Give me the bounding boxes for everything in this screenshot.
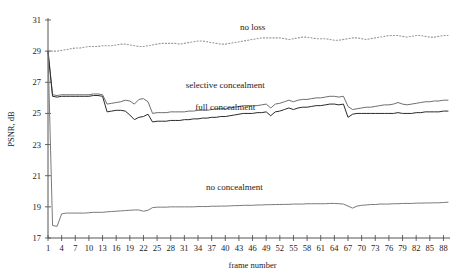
x-tick-label: 58	[303, 243, 312, 253]
x-tick-label: 52	[276, 243, 285, 253]
x-tick-label: 49	[262, 243, 271, 253]
x-tick-label: 1	[46, 243, 50, 253]
y-tick-label: 21	[33, 171, 42, 181]
series-line-no-concealment	[48, 51, 448, 226]
x-tick-label: 55	[289, 243, 298, 253]
x-tick-label: 43	[235, 243, 244, 253]
y-tick-label: 19	[33, 202, 42, 212]
y-tick-label: 23	[33, 140, 42, 150]
x-tick-label: 25	[153, 243, 162, 253]
series-annotation-no-loss: no loss	[240, 22, 266, 32]
x-tick-label: 10	[85, 243, 94, 253]
x-tick-label: 31	[180, 243, 189, 253]
y-tick-label: 27	[33, 77, 42, 87]
y-tick-label: 29	[33, 46, 42, 56]
psnr-frame-chart: 1719212325272931147101316192225283134374…	[0, 0, 458, 279]
y-tick-label: 31	[33, 15, 42, 25]
x-tick-label: 19	[126, 243, 135, 253]
chart-canvas: 1719212325272931147101316192225283134374…	[0, 0, 458, 279]
x-tick-label: 34	[194, 243, 203, 253]
x-tick-label: 37	[207, 243, 216, 253]
series-annotation-selective-concealment: selective concealment	[186, 80, 266, 90]
x-tick-label: 16	[112, 243, 121, 253]
y-tick-label: 25	[33, 108, 42, 118]
y-tick-label: 17	[33, 233, 42, 243]
x-tick-label: 61	[316, 243, 325, 253]
series-annotation-full-concealment: full concealment	[195, 102, 256, 112]
x-tick-label: 88	[439, 243, 448, 253]
x-tick-label: 76	[385, 243, 394, 253]
x-tick-label: 22	[139, 243, 148, 253]
series-line-no-loss	[48, 36, 448, 52]
x-tick-label: 13	[98, 243, 107, 253]
y-axis-title: PSNR, dB	[6, 111, 16, 147]
x-tick-label: 73	[371, 243, 380, 253]
x-tick-label: 79	[398, 243, 407, 253]
x-axis-title: frame number	[229, 260, 277, 270]
x-tick-label: 85	[426, 243, 435, 253]
x-tick-label: 82	[412, 243, 421, 253]
x-tick-label: 4	[60, 243, 65, 253]
x-tick-label: 28	[166, 243, 175, 253]
x-tick-label: 40	[221, 243, 230, 253]
x-tick-label: 70	[357, 243, 366, 253]
x-tick-label: 46	[248, 243, 257, 253]
series-annotation-no-concealment: no concealment	[206, 182, 263, 192]
x-tick-label: 64	[330, 243, 339, 253]
x-tick-label: 7	[73, 243, 77, 253]
x-tick-label: 67	[344, 243, 353, 253]
